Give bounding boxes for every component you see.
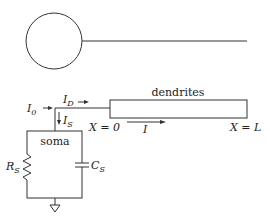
- svg-text:IS: IS: [62, 114, 73, 129]
- arrowhead-icon: [84, 100, 89, 104]
- CS-label: CS: [91, 159, 105, 174]
- I-dendrite-label: I: [142, 123, 148, 136]
- RS-label: RS: [5, 160, 20, 175]
- dendrites-label: dendrites: [151, 86, 204, 99]
- arrowhead-icon: [57, 120, 61, 125]
- soma-circle: [26, 13, 82, 69]
- ID-label: ID: [62, 93, 89, 108]
- I0-label: I0: [26, 102, 53, 117]
- ground-icon: [50, 205, 60, 212]
- arrowhead-icon: [160, 120, 166, 124]
- XL-label: X = L: [229, 121, 261, 134]
- arrowhead-icon: [48, 106, 53, 110]
- soma-label: soma: [40, 135, 70, 148]
- neuron-model-diagram: dendrites I0 ID IS X = 0 I X = L soma RS…: [0, 0, 270, 223]
- svg-text:I0: I0: [26, 102, 36, 117]
- X0-label: X = 0: [88, 121, 120, 134]
- dendrite-cable-box: [110, 100, 247, 118]
- IS-label: IS: [57, 112, 73, 129]
- svg-text:ID: ID: [62, 93, 74, 108]
